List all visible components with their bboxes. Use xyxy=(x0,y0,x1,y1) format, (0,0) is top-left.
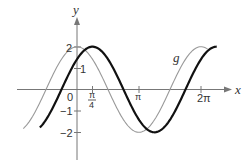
y-tick-label-1: 1 xyxy=(80,63,86,75)
graph-of-g-and-f: y x 0 2 1 −1 −2 π 4 π 2π g xyxy=(0,0,246,162)
curve-g-label: g xyxy=(173,50,180,65)
x-tick-label-pi-over-4-num: π xyxy=(89,90,95,100)
x-tick-label-pi: π xyxy=(135,92,141,102)
y-tick-label-m1: −1 xyxy=(60,105,73,117)
x-tick-label-2pi: 2π xyxy=(197,92,211,104)
y-tick-label-2: 2 xyxy=(66,42,72,54)
origin-label: 0 xyxy=(67,91,73,103)
y-tick-label-m2: −2 xyxy=(60,127,73,139)
x-axis-label: x xyxy=(234,82,241,97)
y-axis-label: y xyxy=(71,2,79,17)
y-axis-arrow-icon xyxy=(74,17,80,25)
x-axis-arrow-icon xyxy=(224,87,232,93)
x-tick-label-pi-over-4-den: 4 xyxy=(89,100,94,110)
